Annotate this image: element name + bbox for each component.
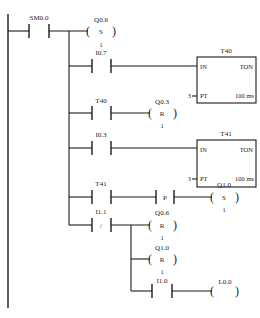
coil-q06-reset: ( ) Q0.6 R 1	[148, 209, 177, 241]
rung-t40-q03: T40	[69, 97, 150, 120]
timer-in-pin: IN	[200, 63, 207, 70]
rung-i11: I1.1 /	[69, 208, 152, 291]
svg-text:): )	[235, 190, 239, 204]
nc-contact-slash: /	[100, 222, 102, 230]
coil-op: R	[160, 222, 165, 230]
contact-label-i10: I1.0	[156, 277, 168, 285]
svg-text:(: (	[210, 284, 214, 298]
coil-address: Q0.6	[155, 209, 169, 217]
timer-base: 100 ms	[235, 92, 254, 99]
coil-count: 1	[160, 268, 163, 275]
coil-q10-reset: ( ) Q1.0 R 1	[148, 244, 177, 275]
svg-text:(: (	[148, 218, 152, 232]
contact-label-sm00: SM0.0	[30, 14, 49, 22]
contact-label-t41: T41	[95, 180, 107, 188]
svg-text:(: (	[148, 106, 152, 120]
contact-label-i07: I0.7	[95, 49, 107, 57]
timer-block-t41: T41 IN TON PT 100 ms 3	[188, 130, 256, 187]
positive-edge-label: P	[163, 194, 167, 202]
timer-base: 100 ms	[235, 175, 254, 182]
coil-count: 1	[99, 41, 102, 48]
coil-address: Q0.3	[155, 98, 169, 106]
svg-text:): )	[235, 284, 239, 298]
svg-text:(: (	[210, 190, 214, 204]
coil-left-paren: (	[86, 24, 90, 38]
coil-count: 1	[160, 234, 163, 241]
svg-text:): )	[173, 252, 177, 266]
timer-pt-value: 3	[188, 92, 191, 99]
coil-address: Q1.0	[155, 244, 169, 252]
coil-op: S	[222, 194, 226, 202]
rung-i10-l00: I1.0	[152, 277, 212, 298]
timer-type: TON	[240, 146, 254, 153]
svg-text:): )	[173, 218, 177, 232]
rung-i07-t40: I0.7	[69, 49, 197, 73]
timer-type: TON	[240, 63, 254, 70]
coil-l00: ( ) L0.0	[210, 278, 239, 298]
coil-q03-reset: ( ) Q0.3 R 1	[148, 98, 177, 129]
rung-t41-q10: T41 P	[69, 180, 212, 204]
timer-pt-pin: PT	[200, 175, 208, 182]
coil-address: Q0.6	[94, 16, 108, 24]
svg-text:(: (	[148, 252, 152, 266]
rung-sm00: SM0.0	[8, 14, 88, 225]
contact-label-i11: I1.1	[95, 208, 107, 216]
contact-label-i03: I0.3	[95, 131, 107, 139]
ladder-diagram: SM0.0 ( ) Q0.6 S 1 I0.7 T40 IN TON PT 10…	[0, 0, 260, 318]
timer-block-t40: T40 IN TON PT 100 ms 3	[188, 47, 256, 103]
timer-in-pin: IN	[200, 146, 207, 153]
coil-address: Q1.0	[217, 181, 231, 189]
coil-address: L0.0	[218, 278, 232, 286]
svg-text:): )	[173, 106, 177, 120]
coil-op: R	[160, 256, 165, 264]
contact-label-t40: T40	[95, 97, 107, 105]
coil-right-paren: )	[112, 24, 116, 38]
coil-op: S	[99, 28, 103, 36]
coil-count: 1	[160, 122, 163, 129]
timer-name: T41	[220, 130, 232, 138]
coil-count: 1	[222, 206, 225, 213]
timer-pt-value: 3	[188, 175, 191, 182]
coil-op: R	[160, 110, 165, 118]
timer-pt-pin: PT	[200, 92, 208, 99]
timer-name: T40	[220, 47, 232, 55]
coil-q06-set: ( ) Q0.6 S 1	[86, 16, 116, 48]
rung-i03-t41: I0.3	[69, 131, 197, 155]
